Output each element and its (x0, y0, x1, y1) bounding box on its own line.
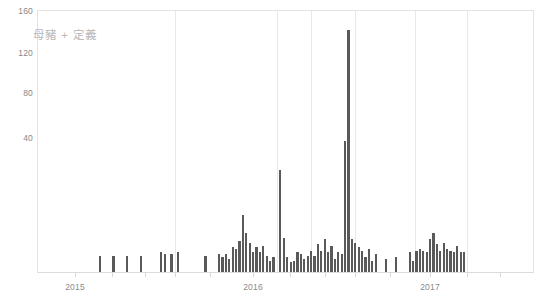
bar (409, 252, 411, 272)
bar (112, 256, 114, 272)
bar (439, 251, 441, 272)
bar (364, 257, 366, 272)
bar (422, 251, 424, 272)
bar (290, 262, 292, 272)
y-axis: 160 120 80 40 (0, 0, 33, 304)
x-tick-mark (175, 272, 176, 277)
bar (269, 261, 271, 272)
y-tick-label: 80 (3, 88, 33, 98)
bar (368, 249, 370, 272)
bar (375, 254, 377, 272)
bar (242, 215, 244, 272)
bar (140, 256, 142, 272)
bar (395, 257, 397, 272)
bar (259, 252, 261, 272)
x-tick-mark (210, 272, 211, 277)
bar (225, 254, 227, 272)
bar (177, 252, 179, 272)
bar (432, 233, 434, 272)
bar (300, 254, 302, 272)
bar (204, 256, 206, 272)
bar (358, 247, 360, 272)
bar (310, 251, 312, 272)
bar (385, 259, 387, 272)
bar (446, 249, 448, 272)
x-tick-mark (390, 272, 391, 277)
x-tick-mark (467, 272, 468, 277)
bar (272, 257, 274, 272)
bar (232, 247, 234, 272)
bar (126, 256, 128, 272)
bar (317, 244, 319, 272)
bar (160, 252, 162, 272)
bar (266, 256, 268, 272)
bar (320, 251, 322, 272)
bar (238, 241, 240, 272)
bar (170, 254, 172, 272)
bar (245, 233, 247, 272)
bar (279, 170, 281, 272)
bar (313, 256, 315, 272)
bar (303, 259, 305, 272)
bar (327, 252, 329, 272)
x-tick-mark (253, 272, 254, 277)
bar (249, 243, 251, 272)
bar (164, 254, 166, 272)
bar (415, 251, 417, 272)
y-tick-label: 120 (3, 48, 33, 58)
bar (218, 254, 220, 272)
bar (334, 259, 336, 272)
x-tick-mark (355, 272, 356, 277)
bar (307, 256, 309, 272)
bar (293, 261, 295, 272)
bar (429, 239, 431, 272)
x-tick-mark (290, 272, 291, 277)
bar-series (37, 10, 534, 272)
bar (426, 252, 428, 272)
y-tick-label: 40 (3, 133, 33, 143)
bar (412, 261, 414, 272)
bar (262, 246, 264, 272)
bar (460, 252, 462, 272)
bar (235, 249, 237, 272)
bar (255, 247, 257, 272)
bar (324, 239, 326, 272)
bar (449, 251, 451, 272)
bar (351, 239, 353, 272)
x-tick-label: 2017 (420, 282, 440, 292)
x-tick-mark (430, 272, 431, 277)
bar (286, 257, 288, 272)
x-tick-label: 2016 (243, 282, 263, 292)
x-tick-mark (112, 272, 113, 277)
bar (330, 246, 332, 272)
bar (436, 244, 438, 272)
bar (344, 141, 346, 272)
bar (354, 243, 356, 272)
chart-title: 母豬 + 定義 (33, 26, 97, 42)
bar (453, 252, 455, 272)
bar (341, 254, 343, 272)
bar (252, 252, 254, 272)
bar (419, 249, 421, 272)
y-tick-label: 160 (3, 6, 33, 16)
bar (337, 252, 339, 272)
trend-chart: 160 120 80 40 201520162017 母豬 + 定義 (0, 0, 543, 304)
bar (99, 256, 101, 272)
bar (221, 257, 223, 272)
x-tick-mark (500, 272, 501, 277)
bar (361, 251, 363, 272)
bar (456, 246, 458, 272)
x-tick-mark (325, 272, 326, 277)
bar (347, 30, 349, 272)
bar (228, 259, 230, 272)
bar (463, 252, 465, 272)
bar (443, 243, 445, 272)
bar (371, 261, 373, 272)
x-tick-label: 2015 (65, 282, 85, 292)
x-tick-mark (75, 272, 76, 277)
x-tick-mark (145, 272, 146, 277)
bar (296, 252, 298, 272)
bar (283, 238, 285, 272)
